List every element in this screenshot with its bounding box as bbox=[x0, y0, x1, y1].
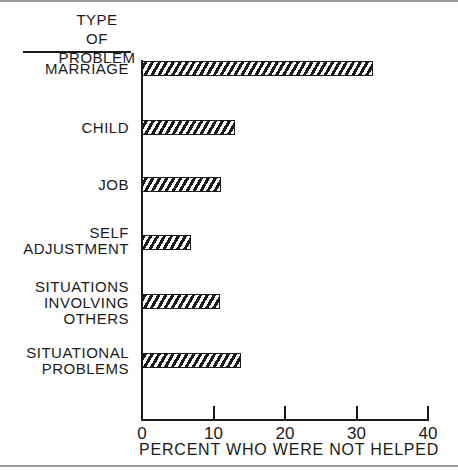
x-tick bbox=[284, 406, 286, 420]
bar-situations-involving-others bbox=[142, 294, 220, 309]
y-axis-title: TYPE OF PROBLEM bbox=[52, 10, 142, 67]
y-axis-title-underline bbox=[23, 51, 131, 53]
x-axis-title: PERCENT WHO WERE NOT HELPED bbox=[139, 441, 439, 459]
bar-marriage bbox=[142, 61, 373, 76]
category-label-situational-problems: SITUATIONAL PROBLEMS bbox=[26, 345, 129, 377]
bar-child bbox=[142, 120, 235, 135]
y-axis-title-line1: TYPE bbox=[52, 10, 142, 29]
x-tick bbox=[213, 406, 215, 420]
bottom-rule bbox=[0, 465, 458, 467]
category-label-self-adjustment: SELF ADJUSTMENT bbox=[23, 225, 129, 257]
x-tick bbox=[356, 406, 358, 420]
bar-job bbox=[142, 177, 221, 192]
bar-situational-problems bbox=[142, 353, 241, 368]
top-rule bbox=[0, 0, 458, 2]
y-axis-line bbox=[141, 60, 143, 421]
category-label-child: CHILD bbox=[81, 120, 129, 136]
category-label-situations-involving-others: SITUATIONS INVOLVING OTHERS bbox=[35, 279, 129, 327]
x-tick bbox=[427, 406, 429, 420]
category-label-marriage: MARRIAGE bbox=[45, 61, 129, 77]
bar-self-adjustment bbox=[142, 235, 191, 250]
category-label-job: JOB bbox=[98, 177, 129, 193]
